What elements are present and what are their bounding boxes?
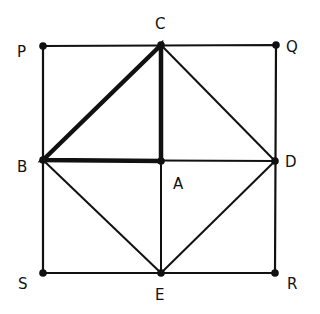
point-s xyxy=(39,269,47,277)
label-s: S xyxy=(18,275,28,293)
label-d: D xyxy=(285,153,297,171)
point-c xyxy=(157,41,165,49)
point-q xyxy=(272,41,280,49)
point-d xyxy=(271,157,279,165)
point-e xyxy=(157,269,165,277)
point-a xyxy=(157,157,165,165)
label-b: B xyxy=(17,158,27,176)
segment-cd xyxy=(161,45,275,161)
point-r xyxy=(271,269,279,277)
label-a: A xyxy=(173,175,184,193)
point-b xyxy=(39,156,47,164)
label-p: P xyxy=(17,43,26,61)
label-e: E xyxy=(155,286,164,304)
point-p xyxy=(39,42,47,50)
label-q: Q xyxy=(286,38,298,56)
label-c: C xyxy=(155,15,165,33)
label-r: R xyxy=(287,275,297,293)
geometry-diagram: P C Q B A D S E R xyxy=(0,0,320,314)
triangle-abc xyxy=(43,45,161,161)
segment-eb xyxy=(43,160,161,273)
